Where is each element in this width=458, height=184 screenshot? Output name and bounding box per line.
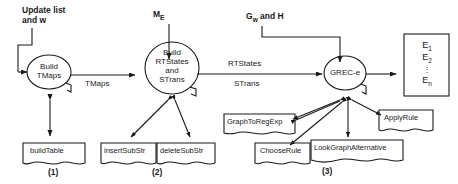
diagram-canvas: Update list and w ME Gw and H Build TMap… xyxy=(0,0,458,184)
entity-list-items: E1 E2 ⋮ En xyxy=(414,40,440,87)
process-build-rtstates-line3: and xyxy=(165,66,178,75)
process-grec-e-label[interactable]: GREC-e xyxy=(325,69,365,78)
process-build-rtstates-line4: STrans xyxy=(159,75,185,84)
entity-n-subscript: n xyxy=(428,80,432,87)
datastore-delete-substr-label[interactable]: deleteSubStr xyxy=(160,147,203,155)
input-gw-suffix: and H xyxy=(258,11,284,21)
input-update-list-line2: and w xyxy=(22,15,46,25)
process-build-tmaps-line2: TMaps xyxy=(37,71,61,80)
process-build-rtstates-line2: RTStates xyxy=(155,57,188,66)
process-grec-e-line1: GREC-e xyxy=(330,68,360,77)
datastore-choose-rule-label[interactable]: ChooseRule xyxy=(260,147,301,155)
input-gw-base: G xyxy=(246,11,253,21)
datastore-graph-to-regexp-label[interactable]: GraphToRegExp xyxy=(227,118,282,126)
process-build-rtstates-label[interactable]: Build RTStates and STrans xyxy=(147,49,197,85)
entity-1-subscript: 1 xyxy=(428,45,432,52)
entity-ellipsis: ⋮ xyxy=(423,65,431,74)
process-build-tmaps-line1: Build xyxy=(40,62,58,71)
flow-strans-label: STrans xyxy=(234,80,260,89)
datastore-look-graph-alternative-label[interactable]: LookGraphAlternative xyxy=(314,144,387,152)
input-update-list-line1: Update list xyxy=(22,5,65,15)
input-me-label: ME xyxy=(153,10,164,21)
group-1-label: (1) xyxy=(48,168,58,178)
input-update-list-label: Update list and w xyxy=(22,6,65,25)
datastore-insert-substr-label[interactable]: insertSubStr xyxy=(104,147,145,155)
flow-rtstates-label: RTStates xyxy=(228,60,261,69)
group-2-label: (2) xyxy=(152,168,162,178)
process-build-rtstates-line1: Build xyxy=(163,48,181,57)
process-build-tmaps-label[interactable]: Build TMaps xyxy=(29,63,69,81)
input-gw-h-label: Gw and H xyxy=(246,12,284,23)
datastore-build-table-label[interactable]: buildTable xyxy=(30,147,64,155)
group-3-label: (3) xyxy=(322,167,332,177)
flow-tmaps-label: TMaps xyxy=(85,80,109,89)
entity-2-subscript: 2 xyxy=(428,57,432,64)
input-me-subscript: E xyxy=(160,14,164,21)
diagram-vector-layer xyxy=(0,0,458,184)
datastore-apply-rule-label[interactable]: ApplyRule xyxy=(384,114,418,122)
